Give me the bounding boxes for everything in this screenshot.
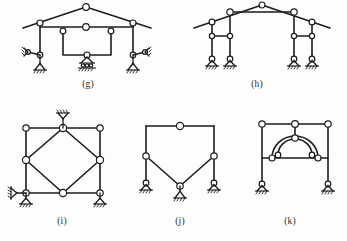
hinge-beam-mid	[83, 24, 90, 31]
hinge-left-mid	[22, 156, 29, 163]
hinge-ridge	[259, 2, 265, 8]
figure-h-drawing	[190, 2, 338, 80]
hinge-ridge	[83, 4, 90, 11]
hinge-arch-springing-left	[269, 155, 275, 161]
support-bottom-right-roller	[93, 193, 107, 207]
hinge-tie-right-outer	[309, 33, 314, 38]
figure-k-drawing	[248, 110, 342, 210]
hinge-right-mid	[96, 156, 103, 163]
support-3-pin	[287, 56, 301, 69]
hinge-outer-right-top	[309, 19, 315, 25]
support-right-roller	[207, 180, 221, 193]
support-left-roller	[8, 186, 26, 200]
support-left-brace-roller	[22, 47, 30, 56]
hinge-bottom-mid	[59, 189, 66, 196]
hinge-tie-left-inner	[227, 33, 232, 38]
figure-sheet: (g)	[0, 0, 347, 241]
hinge-right-knee	[211, 153, 217, 159]
inner-diamond-bracing	[26, 128, 100, 193]
figure-i	[8, 110, 118, 210]
figure-g-caption: (g)	[48, 79, 128, 90]
hinge-left-eave	[37, 20, 43, 26]
figure-i-caption: (i)	[22, 216, 102, 227]
hinge-tie-right-inner	[291, 33, 296, 38]
hinge-top-right	[325, 121, 331, 127]
support-left-base-pin	[33, 55, 47, 73]
hinge-top-left	[259, 121, 265, 127]
support-left-pin	[255, 181, 269, 194]
support-right-brace-roller	[143, 47, 151, 56]
hinge-arch-crown	[292, 135, 298, 141]
hinge-inner-right-top	[291, 9, 297, 15]
support-left-roller	[139, 180, 153, 193]
v-truss	[146, 156, 214, 186]
hinge-arch-inner-left	[275, 152, 281, 158]
figure-k-caption: (k)	[250, 216, 330, 227]
figure-k	[248, 110, 342, 210]
figure-i-drawing	[8, 110, 118, 210]
hinge-top-right	[97, 125, 103, 131]
hinge-inner-left-top	[227, 9, 233, 15]
hinge-tie-left-outer	[209, 33, 214, 38]
hinge-subframe-right-top	[108, 28, 114, 34]
figure-g-drawing	[18, 2, 158, 80]
hinge-left-knee	[143, 153, 149, 159]
figure-j	[132, 110, 228, 210]
support-center-roller	[173, 186, 187, 201]
hinge-arch-inner-right	[309, 152, 315, 158]
support-2-pin	[223, 56, 237, 69]
hinge-arch-springing-right	[315, 155, 321, 161]
hinge-top-left	[23, 125, 29, 131]
figure-h-caption: (h)	[212, 79, 302, 90]
hinge-beam-mid	[292, 121, 299, 128]
figure-j-drawing	[132, 110, 228, 210]
support-top-roller	[56, 110, 70, 128]
support-right-pin	[321, 181, 335, 194]
figure-j-caption: (j)	[140, 216, 220, 227]
hinge-right-eave	[130, 20, 136, 26]
support-1-pin	[205, 56, 219, 69]
support-bottom-left-roller	[19, 193, 33, 207]
support-right-base-pin	[126, 55, 140, 73]
outer-square-frame	[26, 128, 100, 193]
support-4-pin	[305, 56, 319, 69]
figure-g	[18, 2, 158, 80]
hinge-beam-mid	[176, 122, 183, 129]
figure-h	[190, 2, 338, 80]
hinge-outer-left-top	[209, 19, 215, 25]
hinge-subframe-left-top	[60, 28, 66, 34]
